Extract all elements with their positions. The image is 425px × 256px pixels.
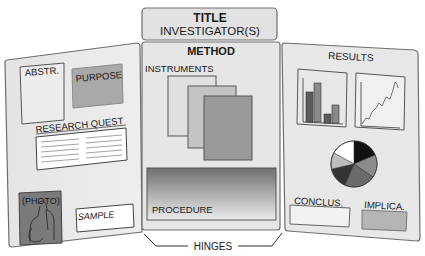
instruments-label: INSTRUMENTS [145, 63, 214, 74]
center-panel: METHOD INSTRUMENTS PROCEDURE [142, 42, 280, 230]
conclusions-box: CONCLUS. [290, 195, 350, 227]
title-text: TITLE [193, 11, 226, 25]
method-heading: METHOD [187, 45, 235, 57]
bar-chart-icon [297, 69, 347, 127]
hinges-label: HINGES [194, 241, 233, 252]
research-question-box: RESEARCH QUEST [35, 115, 127, 170]
implications-box: IMPLICA. [362, 199, 407, 231]
abstract-box: ABSTR. [20, 63, 64, 124]
photo-label: (PHOTO) [22, 196, 60, 206]
hinges-callout: HINGES [144, 233, 282, 252]
title-header: TITLE INVESTIGATOR(S) [142, 8, 277, 40]
display-board-diagram: TITLE INVESTIGATOR(S) ABSTR. PURPOSE RES… [0, 0, 425, 256]
pie-chart-icon [331, 141, 377, 187]
left-panel: ABSTR. PURPOSE RESEARCH QUEST [5, 43, 142, 247]
procedure-label: PROCEDURE [152, 204, 213, 215]
investigators-text: INVESTIGATOR(S) [160, 25, 260, 37]
line-chart-icon [355, 73, 405, 130]
purpose-box: PURPOSE [72, 64, 123, 108]
photo-box: (PHOTO) [19, 191, 62, 245]
right-panel: RESULTS [282, 43, 420, 241]
sample-box: SAMPLE [76, 204, 134, 232]
procedure-box: PROCEDURE [147, 168, 276, 220]
